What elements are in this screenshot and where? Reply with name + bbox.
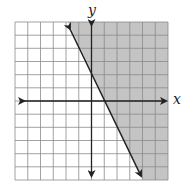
- y-axis-label: y: [88, 2, 96, 18]
- x-axis-label: x: [173, 91, 181, 107]
- inequality-graph: y x: [0, 0, 191, 191]
- graph-canvas: [0, 0, 191, 191]
